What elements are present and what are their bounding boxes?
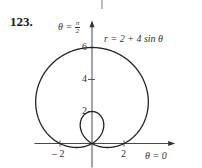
x-tick-label: 2 [121,148,126,159]
y-tick-label: 2 [82,105,87,116]
y-tick-label: 4 [82,73,87,84]
x-tick-label: – 2 [52,148,65,159]
fraction-denominator: 2 [75,28,81,35]
x-axis-arrow-icon [168,141,175,146]
vertical-axis-prefix: θ = [58,21,72,32]
problem-number: 123. [10,14,33,30]
vertical-axis-label: θ = π 2 [58,20,80,35]
polar-chart: 123. θ = π 2 r = 2 + 4 sin θ θ = 0 – 222… [0,0,202,168]
y-axis-arrow-icon [90,20,95,27]
y-tick-label: 6 [82,41,87,52]
pi-over-2-fraction: π 2 [75,20,81,35]
chart-title: r = 2 + 4 sin θ [104,33,163,44]
polar-axis-label: θ = 0 [145,150,167,161]
